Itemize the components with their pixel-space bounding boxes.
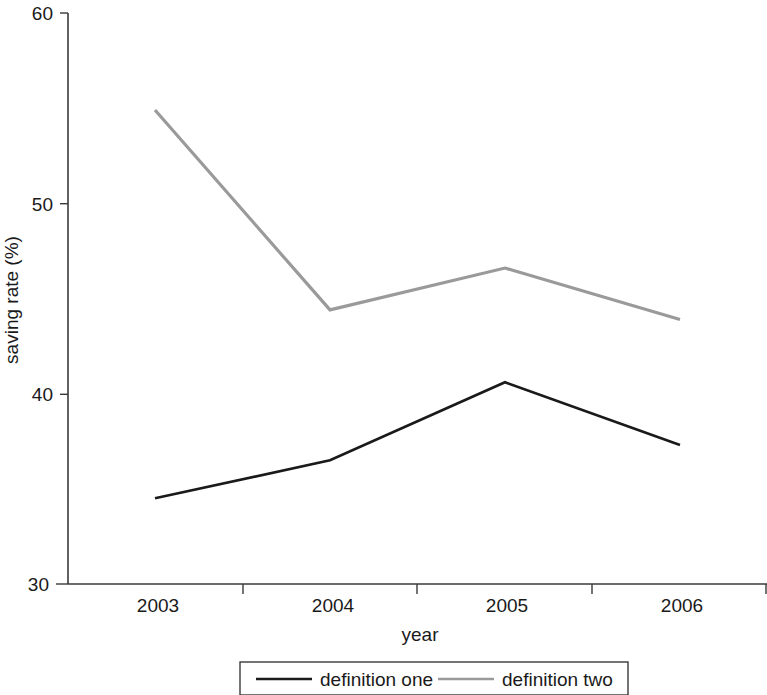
- y-tick-label-40: 40: [32, 384, 53, 405]
- chart-canvas: 60 50 40 30 saving rate (%) 2003 2004 20…: [0, 0, 767, 695]
- y-tick-label-60: 60: [32, 3, 53, 24]
- series-line-definition-one: [155, 382, 680, 498]
- x-axis-title: year: [402, 624, 440, 645]
- x-tick-label-2004: 2004: [312, 595, 355, 616]
- legend-label-definition-one[interactable]: definition one: [320, 669, 433, 690]
- legend-label-definition-two[interactable]: definition two: [502, 669, 613, 690]
- y-tick-label-50: 50: [32, 194, 53, 215]
- line-chart: 60 50 40 30 saving rate (%) 2003 2004 20…: [0, 0, 767, 695]
- x-tick-label-2003: 2003: [137, 595, 179, 616]
- y-tick-label-30: 30: [28, 574, 49, 595]
- legend: definition one definition two: [240, 662, 628, 695]
- y-axis-title: saving rate (%): [1, 236, 22, 364]
- series-line-definition-two: [155, 110, 680, 319]
- x-tick-label-2006: 2006: [661, 595, 703, 616]
- x-tick-label-2005: 2005: [486, 595, 528, 616]
